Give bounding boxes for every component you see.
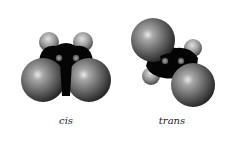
trans-halogen-atom-lower bbox=[171, 63, 215, 107]
isomer-figure: cis trans bbox=[0, 0, 228, 146]
cis-body-seam bbox=[60, 62, 72, 96]
cis-carbon-atom-right bbox=[73, 55, 79, 61]
cis-label: cis bbox=[59, 115, 73, 126]
cis-halogen-atom-right bbox=[67, 58, 111, 102]
trans-carbon-atom-right bbox=[178, 58, 184, 64]
cis-molecule bbox=[21, 32, 111, 102]
trans-molecule bbox=[131, 18, 215, 107]
cis-carbon-atom-left bbox=[56, 55, 62, 61]
cis-halogen-atom-left bbox=[21, 58, 65, 102]
trans-label: trans bbox=[159, 115, 185, 126]
molecule-drawing bbox=[0, 0, 228, 146]
trans-carbon-atom-left bbox=[162, 58, 168, 64]
